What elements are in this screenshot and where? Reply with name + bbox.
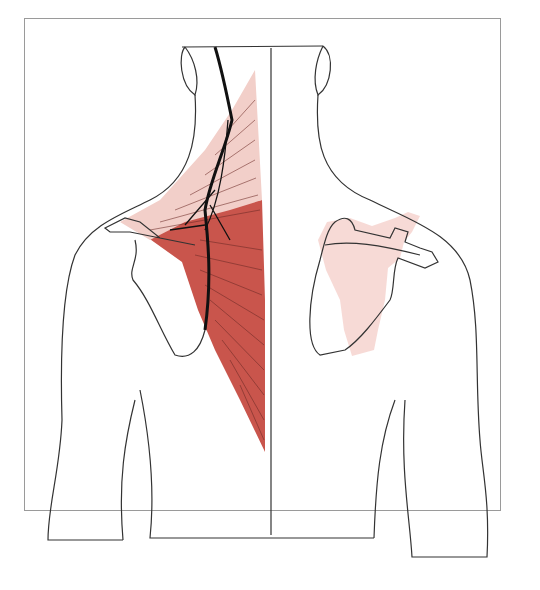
anatomy-illustration [0,0,540,590]
figure-caption [20,584,520,590]
body-outline [48,46,488,557]
